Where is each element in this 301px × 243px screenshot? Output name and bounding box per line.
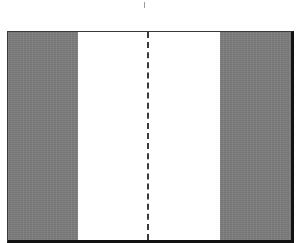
diagram-frame [7, 31, 294, 243]
left-gray-band [8, 32, 78, 240]
dashed-center-line [147, 32, 149, 240]
right-gray-band [220, 32, 291, 240]
top-center-tick-mark [144, 2, 145, 8]
